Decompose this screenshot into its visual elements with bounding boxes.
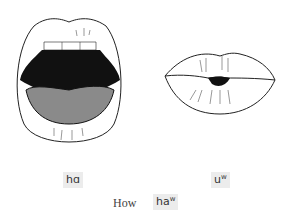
open-mouth-illustration — [14, 6, 124, 156]
caption-ipa: haw — [153, 194, 178, 210]
label-open-mouth: hɑ — [63, 172, 83, 188]
ipa-superscript: w — [170, 195, 176, 203]
label-rounded-lips: uw — [211, 172, 230, 188]
caption-word: How — [113, 196, 136, 211]
label-base: h — [66, 173, 73, 186]
ipa-base: ha — [156, 195, 170, 208]
label-base: u — [214, 173, 221, 186]
label-vowel: ɑ — [73, 173, 80, 186]
rounded-lips-illustration — [162, 48, 278, 118]
label-superscript: w — [221, 173, 227, 181]
